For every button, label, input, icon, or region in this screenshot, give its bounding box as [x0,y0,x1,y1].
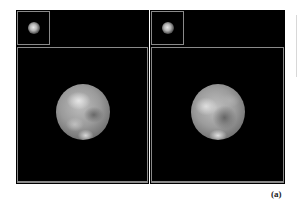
right-image-panel [150,10,285,184]
right-thumbnail-planet [162,22,174,34]
left-image-panel [16,10,149,184]
left-planet-disk [56,84,110,140]
right-enlarged-view [151,47,284,183]
left-thumbnail-planet [28,22,40,34]
right-thumbnail [151,11,184,45]
figure-label: (a) [271,189,282,199]
right-planet-disk [191,84,245,140]
left-enlarged-view [17,47,148,183]
margin-line [296,15,297,77]
left-thumbnail [17,11,50,45]
